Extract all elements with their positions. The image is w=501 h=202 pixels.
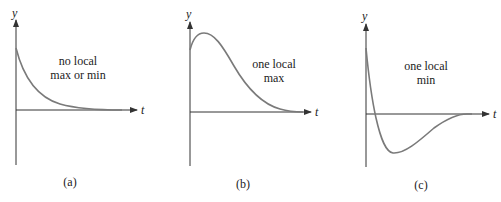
caption-a: (a) <box>63 175 76 189</box>
panel-c: y t one local min (c) <box>361 9 497 192</box>
annotation-line1: one local <box>252 57 296 71</box>
y-axis-label: y <box>11 6 18 20</box>
figure: y t no local max or min (a) y t one loca… <box>0 0 501 202</box>
annotation-line2: min <box>417 73 436 87</box>
caption-c: (c) <box>414 178 427 192</box>
annotation-line1: one local <box>404 59 448 73</box>
annotation-line1: no local <box>59 54 98 68</box>
curve-b <box>190 33 303 112</box>
annotation-line2: max or min <box>50 68 105 82</box>
caption-b: (b) <box>236 177 250 191</box>
panel-b: y t one local max (b) <box>185 7 319 191</box>
panel-a: y t no local max or min (a) <box>11 6 145 189</box>
y-axis-label: y <box>361 9 368 23</box>
annotation-line2: max <box>264 71 285 85</box>
y-axis-label: y <box>185 7 192 21</box>
t-axis-label: t <box>315 105 319 119</box>
t-axis-label: t <box>141 103 145 117</box>
t-axis-label: t <box>493 107 497 121</box>
